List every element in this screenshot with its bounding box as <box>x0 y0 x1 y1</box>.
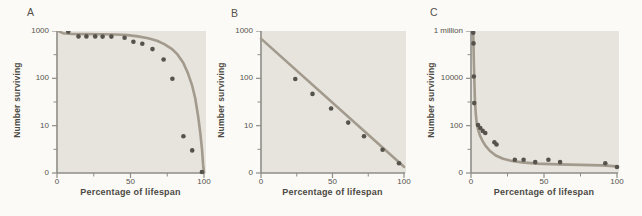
data-point <box>310 92 315 97</box>
data-point <box>397 161 402 166</box>
data-point <box>161 57 166 62</box>
data-point <box>140 41 145 46</box>
data-point <box>122 36 127 41</box>
y-tick-label: 100 <box>1 73 49 83</box>
data-point <box>494 142 499 147</box>
data-point <box>100 34 105 39</box>
data-point <box>533 160 538 165</box>
plot-background <box>57 31 206 173</box>
panel-a-x-axis-label: Percentage of lifespan <box>61 187 201 197</box>
data-point <box>109 34 114 39</box>
data-point <box>603 161 608 166</box>
panel-a-letter: A <box>27 6 35 18</box>
data-point <box>76 34 81 39</box>
y-tick-label: 100 <box>205 73 253 83</box>
x-tick-label: 100 <box>602 177 632 187</box>
y-tick-label: 10000 <box>415 73 463 83</box>
data-point <box>346 120 351 125</box>
panel-b-y-axis-label: Number surviving <box>216 30 226 170</box>
panel-a-y-axis-label: Number surviving <box>12 30 22 170</box>
panel-c-y-axis-label: Number surviving <box>426 30 436 170</box>
y-tick-label: 100 <box>415 121 463 131</box>
y-tick-label: 1000 <box>205 26 253 36</box>
x-tick-label: 50 <box>318 177 348 187</box>
x-tick-label: 0 <box>246 177 276 187</box>
plot-background <box>471 31 619 173</box>
panel-c-letter: C <box>430 6 438 18</box>
data-point <box>362 134 367 139</box>
data-point <box>380 147 385 152</box>
survivorship-curves-figure: A Number surviving Percentage of lifespa… <box>0 0 642 216</box>
data-point <box>293 77 298 82</box>
data-point <box>170 76 175 81</box>
data-point <box>546 158 551 163</box>
data-point <box>190 148 195 153</box>
plot-svg-c <box>464 31 627 181</box>
data-point <box>131 40 136 45</box>
data-point <box>558 160 563 165</box>
x-tick-label: 100 <box>389 177 419 187</box>
data-point <box>521 158 526 163</box>
data-point <box>472 74 477 79</box>
panel-c-x-axis-label: Percentage of lifespan <box>474 187 614 197</box>
panel-b-x-axis-label: Percentage of lifespan <box>263 187 403 197</box>
data-point <box>329 106 334 111</box>
y-tick-label: 10 <box>205 121 253 131</box>
x-tick-label: 0 <box>42 177 72 187</box>
data-point <box>513 158 518 163</box>
data-point <box>150 47 155 52</box>
x-tick-label: 50 <box>529 177 559 187</box>
plot-svg-a <box>50 31 214 181</box>
data-point <box>181 134 186 139</box>
y-tick-label: 1000 <box>1 26 49 36</box>
data-point <box>483 131 488 136</box>
y-tick-label: 1 million <box>415 26 463 36</box>
x-tick-label: 0 <box>456 177 486 187</box>
data-point <box>615 165 620 170</box>
x-tick-label: 50 <box>116 177 146 187</box>
x-tick-label: 100 <box>189 177 219 187</box>
data-point <box>472 101 477 106</box>
panel-b-letter: B <box>231 7 239 19</box>
y-tick-label: 10 <box>1 121 49 131</box>
data-point <box>471 41 476 46</box>
plot-svg-b <box>254 31 414 181</box>
data-point <box>84 34 89 39</box>
data-point <box>200 170 205 175</box>
data-point <box>93 34 98 39</box>
